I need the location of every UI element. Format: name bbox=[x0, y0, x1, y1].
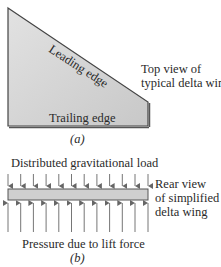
rear-view-description-line3: delta wing bbox=[155, 205, 207, 219]
gravity-load-arrows bbox=[8, 174, 148, 186]
top-view-description-line2: typical delta wing bbox=[141, 76, 221, 90]
figure-a-caption: (a) bbox=[70, 132, 85, 146]
figure-b-caption: (b) bbox=[70, 251, 85, 265]
diagram-canvas bbox=[0, 0, 221, 267]
lift-pressure-label: Pressure due to lift force bbox=[22, 237, 145, 251]
top-view-description-line1: Top view of bbox=[141, 62, 201, 76]
lift-pressure-arrows bbox=[8, 203, 148, 232]
delta-wing-rear-view bbox=[8, 189, 148, 200]
rear-view-description-line1: Rear view bbox=[155, 177, 206, 191]
rear-view-description-line2: of simplified bbox=[155, 191, 219, 205]
trailing-edge-label: Trailing edge bbox=[49, 111, 116, 125]
gravitational-load-label: Distributed gravitational load bbox=[11, 156, 158, 170]
